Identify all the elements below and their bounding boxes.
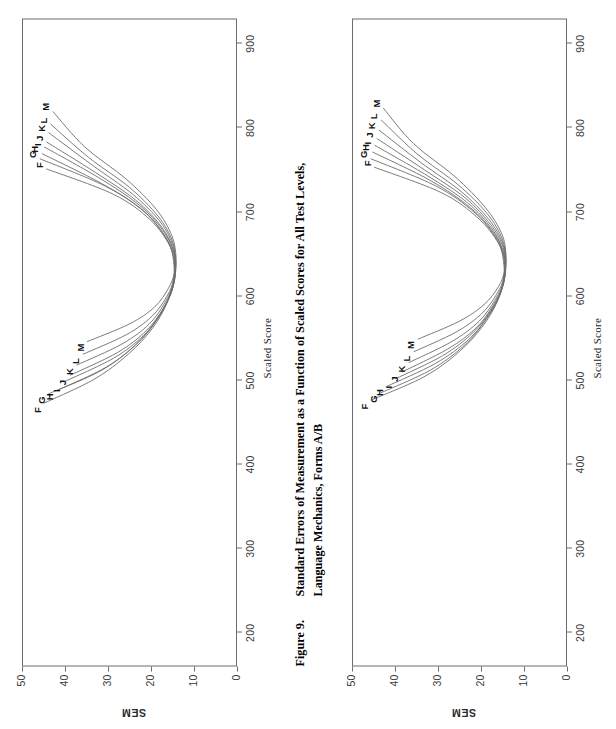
curve-end-label-right-F: F <box>35 162 45 168</box>
curve-end-label-left-L: L <box>71 358 81 364</box>
y-tick-label: 40 <box>58 674 70 700</box>
x-tick-label: 500 <box>574 360 586 400</box>
curve-end-label-left-K: K <box>65 368 75 375</box>
x-tick <box>567 463 572 464</box>
curve-end-label-right-M: M <box>41 102 51 110</box>
curve-end-label-right-J: J <box>35 135 45 140</box>
x-tick-label: 800 <box>574 107 586 147</box>
curve-end-label-left-I: I <box>384 385 394 388</box>
y-axis-title-top: SEM <box>121 706 146 718</box>
x-tick-label: 600 <box>244 276 256 316</box>
x-tick-label: 900 <box>574 23 586 63</box>
curve-end-label-right-M: M <box>372 99 382 107</box>
curve-end-label-right-H: H <box>30 145 40 152</box>
curve-end-label-left-M: M <box>406 341 416 349</box>
x-tick <box>567 379 572 380</box>
curve-G <box>371 158 505 392</box>
y-tick <box>108 666 109 671</box>
plot-frame-top <box>22 18 237 666</box>
x-tick <box>237 379 242 380</box>
curve-end-label-left-M: M <box>76 343 86 351</box>
y-tick <box>481 666 482 671</box>
x-tick-label: 600 <box>574 276 586 316</box>
x-tick-label: 300 <box>244 528 256 568</box>
x-axis-title-top: Scaled Score <box>261 317 273 378</box>
x-tick <box>237 211 242 212</box>
curve-end-label-right-K: K <box>37 124 47 131</box>
x-tick <box>237 126 242 127</box>
x-tick <box>237 295 242 296</box>
y-tick-label: 40 <box>388 674 400 700</box>
caption-line-2: Language Mechanics, Forms A/B <box>310 166 328 596</box>
curve-end-label-right-K: K <box>367 122 377 129</box>
chart-panel-bottom: 20030040050060070080090001020304050 FFGG… <box>348 0 598 729</box>
curves-bottom <box>353 17 568 665</box>
curve-end-label-right-I: I <box>363 141 373 144</box>
y-tick <box>65 666 66 671</box>
x-tick-label: 300 <box>574 528 586 568</box>
y-tick <box>438 666 439 671</box>
y-tick-label: 20 <box>474 674 486 700</box>
curve-end-label-left-H: H <box>375 389 385 396</box>
curve-end-label-right-I: I <box>33 143 43 146</box>
x-tick <box>567 295 572 296</box>
x-tick <box>237 42 242 43</box>
y-tick-label: 50 <box>15 674 27 700</box>
y-tick-label: 0 <box>230 674 242 700</box>
y-tick-label: 30 <box>431 674 443 700</box>
curve-end-label-left-F: F <box>33 407 43 413</box>
curves-top <box>23 17 238 665</box>
figure-page: 20030040050060070080090001020304050 FFGG… <box>0 0 616 729</box>
y-tick-label: 20 <box>144 674 156 700</box>
curve-end-label-right-L: L <box>39 117 49 123</box>
curve-end-label-left-J: J <box>390 376 400 381</box>
curve-end-label-right-H: H <box>361 144 371 151</box>
x-tick-label: 900 <box>244 23 256 63</box>
y-axis-title-bottom: SEM <box>451 706 476 718</box>
curve-H <box>373 152 505 386</box>
x-tick-label: 700 <box>574 192 586 232</box>
curve-end-label-right-J: J <box>365 132 375 137</box>
y-tick-label: 0 <box>560 674 572 700</box>
y-tick <box>395 666 396 671</box>
x-tick-label: 400 <box>574 444 586 484</box>
x-tick <box>567 126 572 127</box>
caption-line-1: Standard Errors of Measurement as a Func… <box>292 166 310 596</box>
x-tick-label: 200 <box>244 612 256 652</box>
curve-end-label-left-H: H <box>45 393 55 400</box>
x-tick <box>567 211 572 212</box>
y-tick-label: 30 <box>101 674 113 700</box>
x-tick-label: 800 <box>244 107 256 147</box>
x-tick-label: 500 <box>244 360 256 400</box>
y-tick <box>237 666 238 671</box>
curve-J <box>47 142 176 375</box>
curve-end-label-right-F: F <box>363 160 373 166</box>
curve-end-label-right-G: G <box>359 150 369 157</box>
x-tick <box>237 631 242 632</box>
y-tick-label: 10 <box>517 674 529 700</box>
curve-end-label-left-J: J <box>58 379 68 384</box>
y-tick <box>22 666 23 671</box>
x-tick-label: 400 <box>244 444 256 484</box>
curve-end-label-left-K: K <box>397 365 407 372</box>
curve-end-label-right-L: L <box>369 113 379 119</box>
curve-F <box>372 167 504 399</box>
page-rotated-content: 20030040050060070080090001020304050 FFGG… <box>0 0 616 729</box>
curve-end-label-left-F: F <box>360 403 370 409</box>
curve-end-label-left-I: I <box>52 389 62 392</box>
x-tick <box>567 42 572 43</box>
x-tick <box>567 631 572 632</box>
y-tick <box>151 666 152 671</box>
figure-number: Figure 9. <box>292 620 310 667</box>
y-tick <box>352 666 353 671</box>
y-tick <box>567 666 568 671</box>
y-tick <box>194 666 195 671</box>
curve-end-label-left-L: L <box>402 355 412 361</box>
y-tick-label: 10 <box>187 674 199 700</box>
x-tick <box>237 547 242 548</box>
y-tick-label: 50 <box>345 674 357 700</box>
x-axis-title-bottom: Scaled Score <box>591 317 603 378</box>
curve-K <box>49 132 176 364</box>
x-tick-label: 700 <box>244 192 256 232</box>
chart-panel-top: 20030040050060070080090001020304050 FFGG… <box>18 0 268 729</box>
